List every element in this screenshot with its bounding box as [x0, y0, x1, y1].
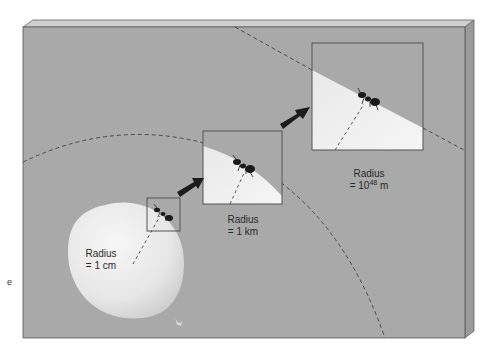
diagram-canvas: [0, 0, 494, 351]
label-radius-medium: Radius = 1 km: [222, 214, 264, 238]
figure: Radius = 1 cm Radius = 1 km Radius = 104…: [0, 0, 494, 351]
label-radius-large: Radius = 1048 m: [344, 168, 394, 192]
zoom-box-large: [312, 43, 423, 150]
label-radius-small: Radius = 1 cm: [80, 248, 122, 272]
zoom-box-medium: [203, 131, 282, 204]
cropped-text-fragment: e: [7, 277, 12, 287]
